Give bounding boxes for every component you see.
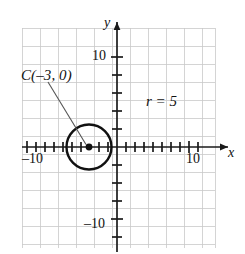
grid-lines bbox=[22, 28, 216, 248]
axis-lines bbox=[22, 22, 228, 252]
coordinate-plane bbox=[0, 0, 245, 254]
y-axis-tick-label-10: 10 bbox=[92, 49, 106, 63]
y-axis-tick-label-negative-10: –10 bbox=[84, 217, 105, 231]
x-axis-label: x bbox=[228, 146, 234, 160]
radius-label: r = 5 bbox=[146, 94, 177, 109]
center-leader-line bbox=[48, 82, 86, 145]
y-axis-arrowhead bbox=[114, 22, 121, 30]
x-axis-tick-label-10: 10 bbox=[186, 152, 200, 166]
circle-graph-figure: C(–3, 0) r = 5 x y –10 10 10 –10 bbox=[0, 0, 245, 254]
x-axis-tick-label-negative-10: –10 bbox=[22, 152, 43, 166]
x-axis-arrowhead bbox=[220, 144, 228, 151]
y-axis-label: y bbox=[104, 16, 110, 30]
center-point bbox=[86, 144, 93, 151]
center-label: C(–3, 0) bbox=[21, 68, 72, 83]
